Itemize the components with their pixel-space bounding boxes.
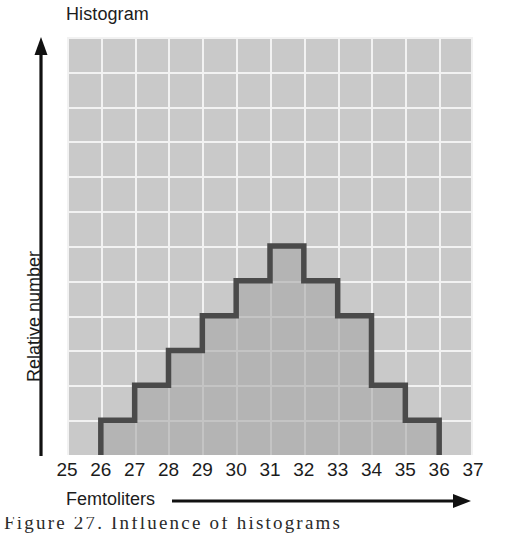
y-axis-label: Relative number <box>24 207 45 427</box>
page-title: Histogram <box>66 4 149 25</box>
chart-plot-area <box>67 37 473 455</box>
x-tick-37: 37 <box>453 459 493 481</box>
figure-caption-text: Figure 27. Influence of histograms <box>4 517 342 533</box>
x-axis-arrow-icon <box>172 492 472 510</box>
histogram-series <box>67 37 473 455</box>
x-axis-label: Femtoliters <box>66 489 155 510</box>
x-axis-tick-labels: 25 26 27 28 29 30 31 32 33 34 35 36 37 <box>0 459 509 485</box>
figure-caption-cropped: Figure 27. Influence of histograms <box>0 517 509 533</box>
